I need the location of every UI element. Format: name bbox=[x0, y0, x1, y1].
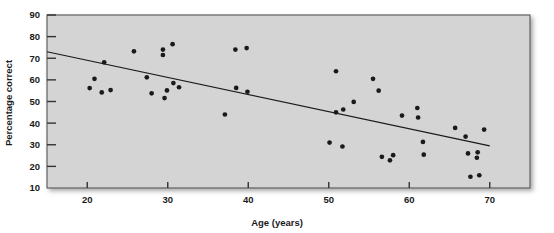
x-axis-label: Age (years) bbox=[251, 217, 303, 228]
x-tick-label: 60 bbox=[404, 194, 415, 205]
y-tick-label: 70 bbox=[29, 53, 40, 64]
data-point bbox=[477, 173, 482, 178]
data-point bbox=[170, 42, 175, 47]
data-point bbox=[380, 155, 385, 160]
data-point bbox=[400, 113, 405, 118]
data-point bbox=[223, 112, 228, 117]
data-point bbox=[102, 60, 107, 65]
y-tick-label: 50 bbox=[29, 96, 40, 107]
x-tick-label: 40 bbox=[243, 194, 254, 205]
data-point bbox=[87, 86, 92, 91]
x-tick-label: 20 bbox=[82, 194, 93, 205]
plot-background bbox=[47, 15, 530, 188]
x-tick-label: 30 bbox=[162, 194, 173, 205]
data-point bbox=[245, 89, 250, 94]
data-point bbox=[108, 88, 113, 93]
data-point bbox=[388, 158, 393, 163]
y-axis-label: Percentage correct bbox=[3, 59, 14, 146]
data-point bbox=[415, 106, 420, 111]
data-point bbox=[463, 134, 468, 139]
data-point bbox=[327, 140, 332, 145]
data-point bbox=[466, 151, 471, 156]
data-point bbox=[234, 86, 239, 91]
y-tick-label: 30 bbox=[29, 139, 40, 150]
y-tick-label: 20 bbox=[29, 161, 40, 172]
data-point bbox=[376, 88, 381, 93]
y-tick-label: 60 bbox=[29, 74, 40, 85]
data-point bbox=[371, 76, 376, 81]
scatter-plot-figure: 102030405060708090 203040506070 Age (yea… bbox=[0, 0, 554, 233]
data-point bbox=[144, 75, 149, 80]
data-point bbox=[340, 144, 345, 149]
data-point bbox=[171, 81, 176, 86]
x-tick-label: 50 bbox=[323, 194, 334, 205]
chart-canvas: 102030405060708090 203040506070 Age (yea… bbox=[0, 0, 554, 233]
data-point bbox=[416, 115, 421, 120]
data-point bbox=[453, 126, 458, 131]
data-point bbox=[161, 53, 166, 58]
data-point bbox=[162, 96, 167, 101]
data-point bbox=[334, 110, 339, 115]
data-point bbox=[351, 100, 356, 105]
data-point bbox=[391, 153, 396, 158]
data-point bbox=[233, 47, 238, 52]
data-point bbox=[421, 140, 426, 145]
plot-area bbox=[47, 15, 530, 188]
data-point bbox=[334, 69, 339, 74]
x-tick-label: 70 bbox=[484, 194, 495, 205]
data-point bbox=[244, 46, 249, 51]
data-point bbox=[92, 76, 97, 81]
data-point bbox=[341, 107, 346, 112]
data-point bbox=[177, 85, 182, 90]
data-point bbox=[475, 155, 480, 160]
data-point bbox=[149, 91, 154, 96]
data-point bbox=[165, 88, 170, 93]
y-tick-label: 10 bbox=[29, 182, 40, 193]
data-point bbox=[421, 152, 426, 157]
y-tick-label: 80 bbox=[29, 31, 40, 42]
y-tick-label: 90 bbox=[29, 9, 40, 20]
data-point bbox=[132, 49, 137, 54]
data-point bbox=[468, 174, 473, 179]
data-point bbox=[161, 47, 166, 52]
data-point bbox=[475, 150, 480, 155]
data-point bbox=[99, 90, 104, 95]
data-point bbox=[482, 127, 487, 132]
y-tick-label: 40 bbox=[29, 118, 40, 129]
